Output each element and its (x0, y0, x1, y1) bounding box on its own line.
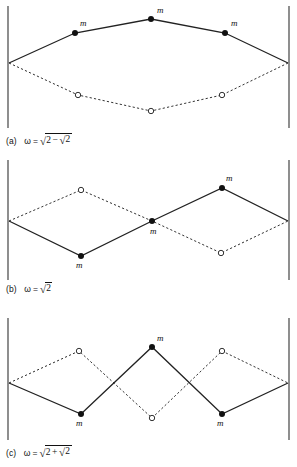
radical-c: √2+√2 (40, 446, 72, 459)
caption-b: (b) ω=√2 (6, 283, 52, 295)
mass-label: m (157, 333, 164, 343)
panel-tag-a: (a) (6, 136, 17, 146)
mass-marker (149, 344, 155, 350)
mass-marker (72, 30, 78, 36)
open-circle-marker (218, 250, 223, 255)
radicand-right-c: 2 (65, 446, 70, 456)
mass-label: m (150, 226, 157, 236)
mass-marker (219, 411, 225, 417)
mass-marker (78, 411, 84, 417)
panel-b: m m m (b) ω=√2 (0, 155, 297, 303)
caption-c: (c) ω=√2+√2 (6, 446, 72, 459)
mass-label: m (226, 173, 233, 183)
radicand-left-b: 2 (46, 283, 51, 293)
radical-bar: 2 (65, 133, 72, 144)
dashed-displacement-curve (9, 63, 288, 111)
mass-label: m (231, 18, 238, 28)
dashed-displacement-curve (9, 351, 288, 418)
mass-marker (219, 185, 225, 191)
inner-radical-c: √2 (59, 446, 71, 458)
mass-marker (222, 30, 228, 36)
panel-c-diagram: m m m (0, 300, 297, 467)
radical-bar: 2 (45, 282, 52, 293)
solid-displacement-curve (9, 19, 288, 63)
mass-label: m (217, 418, 224, 428)
omega-symbol-c: ω (19, 448, 31, 458)
mass-marker (78, 253, 84, 259)
normal-modes-figure: m m m (a) ω=√2−√2 m m (0, 0, 297, 467)
open-circle-marker (219, 92, 224, 97)
panel-b-diagram: m m m (0, 155, 297, 303)
omega-symbol-b: ω (19, 284, 31, 294)
radicand-op-a: − (51, 135, 59, 145)
solid-displacement-curve (9, 347, 288, 414)
radicand-left-c: 2 (46, 447, 51, 457)
radical-b: √2 (40, 283, 52, 295)
solid-displacement-curve (9, 188, 288, 256)
mass-marker (149, 218, 155, 224)
omega-symbol-a: ω (19, 136, 31, 146)
equals-sign-a: = (31, 136, 40, 146)
inner-radical-a: √2 (59, 134, 71, 146)
mass-marker (148, 16, 154, 22)
equals-sign-b: = (31, 284, 40, 294)
mass-label: m (157, 5, 164, 15)
mass-label: m (76, 260, 83, 270)
radical-bar: 2 (64, 445, 71, 456)
equals-sign-c: = (30, 448, 39, 458)
panel-tag-c: (c) (6, 448, 16, 458)
radical-bar: 2+√2 (45, 445, 72, 458)
radicand-op-c: + (51, 447, 59, 457)
open-circle-marker (219, 348, 224, 353)
mass-label: m (76, 418, 83, 428)
radical-a: √2−√2 (40, 134, 72, 147)
open-circle-marker (75, 92, 80, 97)
open-circle-marker (149, 415, 154, 420)
mass-label: m (80, 18, 87, 28)
caption-a: (a) ω=√2−√2 (6, 134, 72, 147)
panel-c: m m m (c) ω=√2+√2 (0, 300, 297, 467)
radical-bar: 2−√2 (45, 133, 72, 146)
open-circle-marker (78, 187, 83, 192)
open-circle-marker (76, 348, 81, 353)
panel-tag-b: (b) (6, 284, 17, 294)
panel-a: m m m (a) ω=√2−√2 (0, 0, 297, 158)
radicand-right-a: 2 (66, 134, 71, 144)
open-circle-marker (148, 108, 153, 113)
